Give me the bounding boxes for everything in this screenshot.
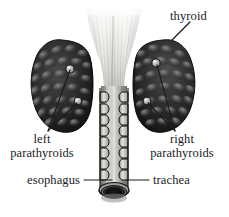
label-left-parathyroids-line1: left bbox=[33, 132, 50, 146]
label-esophagus: esophagus bbox=[27, 173, 80, 187]
parathyroid-left-inferior bbox=[74, 97, 82, 105]
anatomy-illustration: thyroid left parathyroids right parathyr… bbox=[0, 0, 229, 217]
parathyroid-right-superior bbox=[152, 59, 160, 67]
label-left-parathyroids-line2: parathyroids bbox=[10, 146, 74, 160]
anatomy-figure: thyroid left parathyroids right parathyr… bbox=[0, 0, 229, 217]
parathyroid-left-superior bbox=[66, 65, 74, 73]
label-right-parathyroids-line1: right bbox=[170, 132, 195, 146]
label-right-parathyroids-line2: parathyroids bbox=[150, 146, 214, 160]
parathyroid-right-inferior bbox=[143, 97, 151, 105]
trachea-tube bbox=[100, 86, 128, 190]
trachea-lumen bbox=[99, 183, 129, 203]
label-thyroid: thyroid bbox=[170, 9, 207, 23]
label-trachea: trachea bbox=[153, 173, 190, 187]
